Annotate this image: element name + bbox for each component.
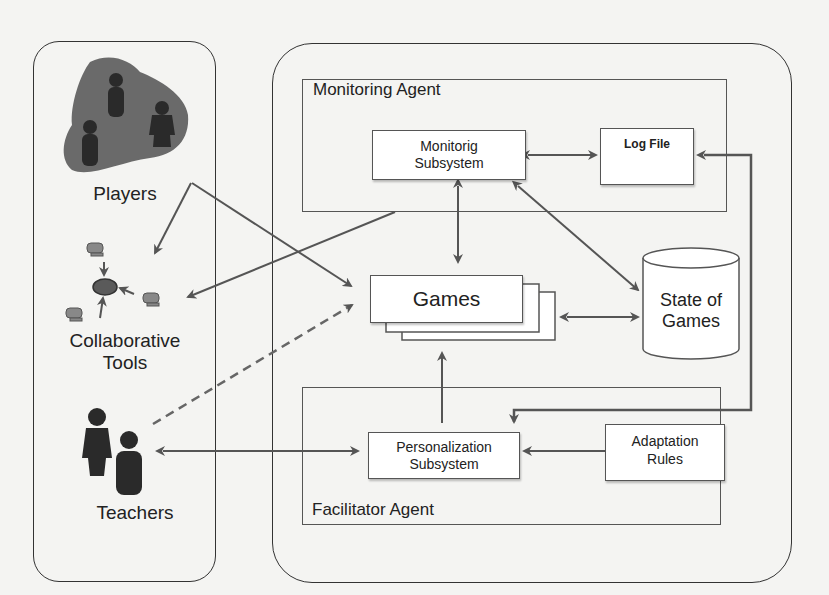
collaborative-tools-label: Collaborative Tools (40, 330, 210, 374)
adaptation-rules-line2: Rules (606, 451, 724, 469)
monitoring-subsystem-line1: Monitorig (420, 138, 478, 155)
personalization-subsystem-line2: Subsystem (409, 456, 478, 473)
personalization-subsystem-line1: Personalization (396, 439, 492, 456)
log-file-label: Log File (624, 137, 670, 151)
teachers-icon (82, 408, 142, 495)
monitoring-subsystem-line2: Subsystem (414, 155, 483, 172)
players-group-icon (64, 57, 188, 172)
adaptation-rules-document: Adaptation Rules (605, 424, 725, 481)
network-computers-icon (66, 243, 159, 321)
adaptation-rules-line1: Adaptation (606, 433, 724, 451)
players-label: Players (80, 183, 170, 205)
games-label: Games (413, 286, 481, 311)
state-of-games-line1: State of (643, 290, 739, 311)
collaborative-tools-line2: Tools (40, 352, 210, 374)
teachers-label: Teachers (80, 502, 190, 524)
state-of-games-label: State of Games (643, 290, 739, 332)
state-of-games-line2: Games (643, 311, 739, 332)
personalization-subsystem-box: Personalization Subsystem (368, 432, 520, 479)
log-file-document: Log File (600, 128, 694, 185)
collaborative-tools-line1: Collaborative (40, 330, 210, 352)
monitoring-subsystem-box: Monitorig Subsystem (372, 130, 526, 180)
games-box: Games (370, 275, 523, 323)
